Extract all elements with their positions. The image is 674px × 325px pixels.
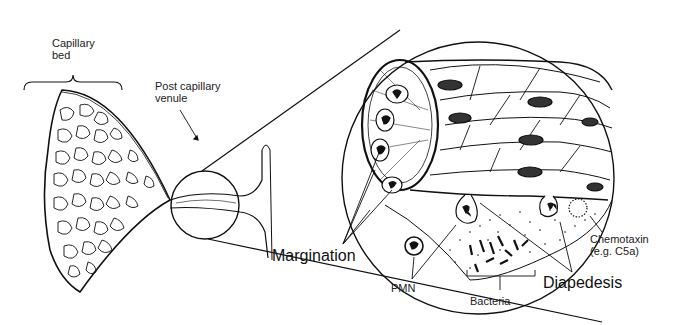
diagram-canvas: Capillary bed Post capillary venule Marg… bbox=[0, 0, 674, 325]
label-venule-line1: Post capillary bbox=[155, 80, 220, 92]
label-margination: Margination bbox=[272, 247, 356, 265]
label-capillary-bed: Capillary bed bbox=[52, 37, 95, 61]
label-chemotaxin-line1: Chemotaxin bbox=[590, 233, 649, 245]
bacteria bbox=[470, 236, 528, 272]
label-chemotaxin-line2: (e.g. C5a) bbox=[590, 245, 649, 257]
label-diapedesis: Diapedesis bbox=[543, 274, 622, 292]
zoom-line-top bbox=[202, 30, 400, 171]
label-capillary-bed-line2: bed bbox=[52, 49, 95, 61]
capillary-bed-bracket bbox=[24, 75, 122, 90]
tissue-boundary bbox=[385, 200, 612, 280]
label-capillary-bed-line1: Capillary bbox=[52, 37, 95, 49]
diapedesis-pointers bbox=[480, 203, 572, 272]
free-pmn bbox=[405, 237, 423, 255]
label-post-capillary-venule: Post capillary venule bbox=[155, 80, 220, 104]
label-bacteria: Bacteria bbox=[470, 295, 510, 307]
label-venule-line2: venule bbox=[155, 92, 220, 104]
label-pmn: PMN bbox=[391, 282, 415, 294]
diapedesis-cells bbox=[456, 195, 587, 223]
pmn-pointers bbox=[412, 225, 456, 279]
magnifier-circle-small bbox=[171, 171, 239, 239]
endothelial-tube bbox=[405, 60, 612, 200]
capillary-bed-network bbox=[44, 90, 170, 292]
label-chemotaxin: Chemotaxin (e.g. C5a) bbox=[590, 233, 649, 257]
margination-pointers bbox=[343, 150, 392, 244]
